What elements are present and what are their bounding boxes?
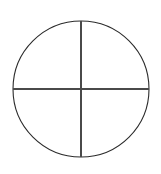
- circle-crosshair-diagram: [0, 0, 161, 174]
- diagram-svg: [0, 0, 161, 174]
